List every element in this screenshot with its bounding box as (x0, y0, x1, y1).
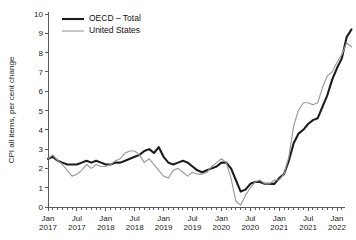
x-tick-label-year: 2019 (184, 223, 202, 232)
x-axis: Jan2017Jul2017Jan2018Jul2018Jan2019Jul20… (39, 207, 346, 232)
x-tick-label-year: 2021 (299, 223, 317, 232)
x-tick-label-year: 2022 (328, 223, 346, 232)
y-tick-label: 9 (39, 29, 44, 38)
chart-canvas: 012345678910 Jan2017Jul2017Jan2018Jul201… (0, 0, 356, 240)
x-tick-label-month: Jan (273, 214, 286, 223)
y-tick-label: 2 (39, 164, 44, 173)
x-tick-label-month: Jul (130, 214, 140, 223)
x-tick-label-year: 2020 (213, 223, 231, 232)
x-tick-label-year: 2017 (39, 223, 57, 232)
x-tick-label-year: 2018 (97, 223, 115, 232)
y-tick-label: 1 (39, 184, 44, 193)
x-tick-label-month: Jan (331, 214, 344, 223)
cpi-line-chart: 012345678910 Jan2017Jul2017Jan2018Jul201… (0, 0, 356, 240)
x-tick-label-month: Jul (303, 214, 313, 223)
y-tick-label: 8 (39, 49, 44, 58)
x-tick-label-month: Jan (215, 214, 228, 223)
y-tick-label: 0 (39, 203, 44, 212)
series-line-united-states (48, 43, 351, 205)
series-lines (48, 29, 351, 205)
x-tick-label-year: 2019 (155, 223, 173, 232)
x-tick-label-month: Jul (72, 214, 82, 223)
y-tick-label: 7 (39, 68, 44, 77)
x-tick-label-month: Jan (99, 214, 112, 223)
y-tick-label: 3 (39, 145, 44, 154)
x-tick-label-month: Jan (42, 214, 55, 223)
y-tick-label: 6 (39, 87, 44, 96)
x-tick-label-year: 2017 (68, 223, 86, 232)
chart-legend: OECD – TotalUnited States (62, 13, 141, 35)
x-tick-label-month: Jan (157, 214, 170, 223)
x-tick-label-year: 2020 (241, 223, 259, 232)
x-tick-label-month: Jul (245, 214, 255, 223)
y-axis-title: CPI all items, per cent change (7, 56, 16, 163)
y-tick-label: 10 (34, 10, 43, 19)
legend-label-oecd-total: OECD – Total (89, 13, 141, 23)
legend-label-united-states: United States (89, 25, 140, 35)
x-tick-label-year: 2021 (270, 223, 288, 232)
y-tick-label: 4 (39, 126, 44, 135)
x-tick-label-month: Jul (187, 214, 197, 223)
y-axis: 012345678910 (34, 10, 48, 212)
x-tick-label-year: 2018 (126, 223, 144, 232)
y-tick-label: 5 (39, 107, 44, 116)
